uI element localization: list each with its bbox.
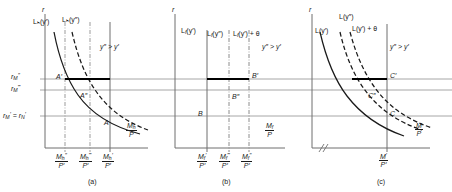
panel-a-y-axis-label: r xyxy=(42,6,44,13)
panel-c xyxy=(312,14,432,152)
panel-b-point-B: B xyxy=(198,110,203,117)
panel-c-curve-label-L-yprime: L(y′) xyxy=(315,27,328,34)
panel-a-ytick-rM-prime-eq-rN-prime: rM′ = rN′ xyxy=(3,111,26,120)
panel-c-x-axis-label: MP xyxy=(415,122,423,138)
panel-a-xtick-Mh-tprime: Mh‴P′ xyxy=(79,152,92,170)
panel-a-xtick-Mh-dprime: Mh″P′ xyxy=(55,152,68,170)
panel-a-caption: (a) xyxy=(88,178,97,185)
panel-c-curve-L-ydprime xyxy=(340,32,422,130)
panel-a-curve-label-Lh-ydprime: Lₕ(y″) xyxy=(62,16,80,23)
panel-a-ytick-rM-dprime: rM″ xyxy=(11,72,20,81)
panel-b-curve-label-Lf-ydprime: Lf(y″) xyxy=(207,30,223,38)
panel-b-condition-annotation: y″ > y′ xyxy=(262,43,281,50)
panel-a-x-axis-label: MhP xyxy=(126,122,137,139)
panel-a-condition-annotation: y″ > y′ xyxy=(100,43,119,50)
panel-a-point-A: A xyxy=(104,119,109,126)
panel-b-xtick-Mf-dprime: Mf″P′ xyxy=(241,152,252,170)
panel-a-point-A-prime: A′ xyxy=(56,73,62,80)
panel-a-ytick-rM-tprime: rM‴ xyxy=(11,84,20,93)
panel-a-xtick-Mh-prime: Mh′P′ xyxy=(102,152,114,170)
panel-b-y-axis-label: r xyxy=(172,6,174,13)
panel-c-curve-label-L-yprime-theta: L(y′) + θ xyxy=(352,25,377,32)
panel-b-xtick-Mf-prime: Mf′P′ xyxy=(197,152,207,170)
panel-b-point-B-prime: B′ xyxy=(252,72,258,79)
panel-b-point-B-dprime: B″ xyxy=(232,93,239,100)
panel-c-point-C-prime: C′ xyxy=(390,72,396,79)
panel-a-point-A-dprime: A″ xyxy=(80,92,87,99)
panel-b-curve-label-Lf-yprime: Lf(y′) xyxy=(181,27,196,35)
panel-c-curve-label-L-ydprime: L(y″) xyxy=(339,13,354,20)
panel-c-xtick-M-prime: M′P′ xyxy=(379,152,388,168)
panel-c-y-axis-label: r xyxy=(309,6,311,13)
economics-figure: r Lₕ(y′) Lₕ(y″) y″ > y′ rM″ rM‴ rM′ = rN… xyxy=(0,0,452,192)
panel-b-x-axis-label: MfP xyxy=(265,122,274,139)
panel-b-caption: (b) xyxy=(222,178,231,185)
panel-a-curve-Lh-yprime xyxy=(54,32,140,134)
panel-c-point-C: C xyxy=(390,110,395,117)
panel-b-curve-label-Lf-yprime-theta: Lf(y′) + θ xyxy=(233,30,260,38)
panel-c-point-C-dprime: C″ xyxy=(368,92,376,99)
panel-a-curve-label-Lh-yprime: Lₕ(y′) xyxy=(33,18,49,25)
panel-b-xtick-Mf-tprime: Mf‴P′ xyxy=(219,152,230,170)
panel-c-caption: (c) xyxy=(377,178,385,185)
panel-c-condition-annotation: y″ > y′ xyxy=(390,43,409,50)
